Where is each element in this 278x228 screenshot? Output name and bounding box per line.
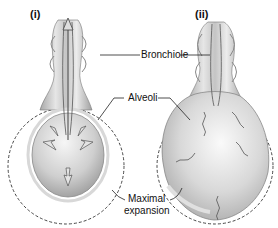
panel-label-ii: (ii) — [195, 8, 208, 20]
alveolus-sac-ii — [162, 92, 269, 221]
panel-label-i: (i) — [30, 8, 40, 20]
bronchiole-wall-i — [40, 20, 92, 110]
label-bronchiole: Bronchiole — [141, 49, 188, 60]
label-maximal-expansion-line1: Maximal — [128, 193, 165, 204]
label-alveoli: Alveoli — [128, 92, 157, 103]
panel-i — [8, 18, 124, 224]
label-maximal-expansion-line2: expansion — [124, 205, 170, 216]
